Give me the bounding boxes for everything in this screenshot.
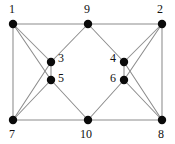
graph-node-label-7: 7 (9, 128, 15, 140)
graph-node-label-10: 10 (80, 128, 92, 140)
graph-edge-1-3 (13, 24, 51, 62)
graph-node-label-2: 2 (157, 3, 163, 15)
graph-edge-8-6 (124, 80, 162, 120)
graph-node-label-4: 4 (110, 52, 116, 64)
graph-node-8 (158, 116, 166, 124)
graph-node-5 (47, 76, 55, 84)
graph-edge-9-4 (88, 24, 124, 62)
graph-node-label-5: 5 (58, 72, 64, 84)
graph-node-label-6: 6 (110, 72, 116, 84)
node-layer (9, 20, 166, 124)
graph-diagram: 19234567108 (0, 0, 175, 144)
edge-layer (13, 24, 162, 120)
graph-node-3 (47, 58, 55, 66)
graph-edge-7-3 (13, 62, 51, 120)
graph-node-1 (9, 20, 17, 28)
graph-node-10 (84, 116, 92, 124)
graph-node-9 (84, 20, 92, 28)
graph-node-label-8: 8 (158, 128, 164, 140)
graph-edge-10-5 (51, 80, 88, 120)
graph-canvas (0, 0, 175, 144)
graph-node-6 (120, 76, 128, 84)
graph-node-4 (120, 58, 128, 66)
graph-edge-9-3 (51, 24, 88, 62)
graph-edge-8-4 (124, 62, 162, 120)
graph-edge-10-6 (88, 80, 124, 120)
graph-node-7 (9, 116, 17, 124)
graph-edge-7-5 (13, 80, 51, 120)
graph-node-label-1: 1 (9, 3, 15, 15)
graph-edge-2-4 (124, 24, 162, 62)
graph-node-label-9: 9 (84, 3, 90, 15)
graph-node-2 (158, 20, 166, 28)
graph-node-label-3: 3 (58, 52, 64, 64)
